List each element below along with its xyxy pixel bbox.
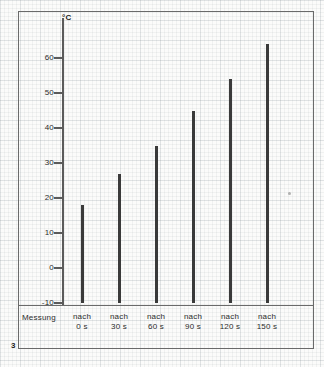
- y-axis-tick-label: 60: [18, 53, 54, 62]
- scan-artifact-speck: [288, 192, 291, 195]
- y-axis-tick: [54, 302, 64, 304]
- bar-chart: °C 6050403020100-10 Messung nach0 snach3…: [0, 0, 324, 367]
- y-axis-tick-label: 20: [18, 193, 54, 202]
- x-axis-separator: [19, 305, 313, 306]
- bar: [155, 146, 158, 304]
- bar: [192, 111, 195, 304]
- y-axis-title: °C: [62, 13, 71, 22]
- y-axis-tick-label: 40: [18, 123, 54, 132]
- y-axis-tick: [54, 57, 64, 59]
- y-axis-tick: [54, 127, 64, 129]
- bar: [266, 44, 269, 303]
- y-axis-tick: [54, 267, 64, 269]
- y-axis-tick-label: 0: [18, 263, 54, 272]
- bar: [81, 205, 84, 303]
- y-axis-tick: [54, 92, 64, 94]
- x-axis-category-label: nach150 s: [243, 312, 291, 332]
- y-axis-tick-label: 10: [18, 228, 54, 237]
- page-number: 3: [11, 341, 15, 350]
- x-axis-label: Messung: [22, 313, 56, 322]
- category-label-line2: 150 s: [243, 322, 291, 332]
- bar: [118, 174, 121, 304]
- y-axis-tick: [54, 232, 64, 234]
- y-axis-tick-label: 30: [18, 158, 54, 167]
- bar: [229, 79, 232, 303]
- y-axis-tick-label: 50: [18, 88, 54, 97]
- y-axis-tick: [54, 197, 64, 199]
- y-axis-tick: [54, 162, 64, 164]
- page-rule: [18, 348, 314, 349]
- category-label-line1: nach: [243, 312, 291, 322]
